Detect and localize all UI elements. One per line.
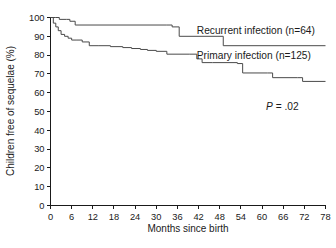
x-tick-label: 42 xyxy=(193,212,203,222)
x-tick-label: 30 xyxy=(151,212,161,222)
kaplan-meier-chart: 0102030405060708090100 06121824303642485… xyxy=(0,0,336,248)
p-value-annotation: P = .02 xyxy=(266,101,299,112)
y-tick-label: 60 xyxy=(34,88,44,98)
x-tick-label: 36 xyxy=(172,212,182,222)
y-axis-title: Children free of sequelae (%) xyxy=(5,46,16,176)
x-tick-label: 78 xyxy=(320,212,330,222)
x-axis-title: Months since birth xyxy=(147,223,228,234)
y-tick-label: 10 xyxy=(34,182,44,192)
y-tick-label: 0 xyxy=(39,201,44,211)
figure-caption-cut xyxy=(0,240,336,248)
x-tick-label: 66 xyxy=(278,212,288,222)
x-tick-label: 54 xyxy=(236,212,246,222)
y-tick-label: 90 xyxy=(34,32,44,42)
x-tick-label: 6 xyxy=(69,212,74,222)
x-tick-label: 48 xyxy=(215,212,225,222)
y-tick-label: 80 xyxy=(34,50,44,60)
y-tick-label: 20 xyxy=(34,163,44,173)
series-label: Primary infection (n=125) xyxy=(197,50,311,61)
y-tick-label: 30 xyxy=(34,144,44,154)
x-tick-label: 60 xyxy=(257,212,267,222)
y-tick-label: 50 xyxy=(34,107,44,117)
x-tick-label: 18 xyxy=(109,212,119,222)
x-tick-label: 24 xyxy=(130,212,140,222)
figure-root: 0102030405060708090100 06121824303642485… xyxy=(0,0,336,248)
series-label: Recurrent infection (n=64) xyxy=(197,25,315,36)
y-tick-label: 100 xyxy=(29,13,45,23)
x-tick-label: 72 xyxy=(299,212,309,222)
x-tick-label: 12 xyxy=(88,212,98,222)
y-tick-label: 40 xyxy=(34,126,44,136)
x-tick-label: 0 xyxy=(48,212,53,222)
y-tick-label: 70 xyxy=(34,69,44,79)
p-value-number: = .02 xyxy=(273,101,299,112)
